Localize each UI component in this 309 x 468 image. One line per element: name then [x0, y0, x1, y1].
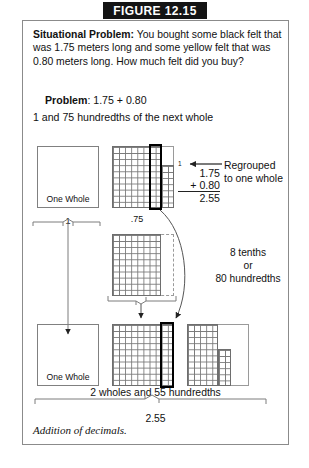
bottom-remainder-grid-lower: [218, 349, 231, 386]
top-grid-partial: [161, 165, 174, 208]
figure-tab-label: FIGURE 12.15: [113, 4, 197, 18]
result-value-label: 2.55: [33, 413, 278, 424]
tick-label-one: 1: [48, 216, 88, 226]
calc-carry: 1: [178, 160, 220, 167]
bottom-one-whole-label: One Whole: [38, 372, 98, 382]
figure-tab: FIGURE 12.15: [103, 2, 207, 19]
figure-caption: Addition of decimals.: [33, 424, 127, 436]
bottom-remainder-grid-upper: [187, 324, 218, 386]
bottom-regrouped-column: [160, 322, 174, 388]
vertical-calculation: 1 1.75 + 0.80 2.55: [178, 160, 220, 205]
regrouped-line-1: Regrouped: [224, 159, 304, 172]
situational-problem-label: Situational Problem:: [33, 29, 134, 40]
top-one-whole-box: One Whole: [37, 146, 99, 208]
eight-tenths-line-3: 80 hundredths: [196, 272, 300, 285]
problem-subline: 1 and 75 hundredths of the next whole: [33, 111, 213, 123]
bottom-one-whole-box: One Whole: [37, 324, 99, 386]
top-one-whole-label: One Whole: [38, 194, 98, 204]
result-text-label: 2 wholes and 55 hundredths: [33, 387, 278, 398]
problem-label: Problem: [45, 94, 87, 106]
calc-addend-1: 1.75: [178, 167, 220, 179]
top-regrouped-column: [149, 144, 162, 210]
calc-addend-2: + 0.80: [178, 179, 220, 191]
situational-problem-text: Situational Problem: You bought some bla…: [33, 28, 283, 68]
tick-label-seventyfive: .75: [122, 214, 152, 224]
regrouped-annotation: Regrouped to one whole: [224, 159, 304, 185]
eight-tenths-line-2: or: [196, 259, 300, 272]
eight-tenths-line-1: 8 tenths: [196, 246, 300, 259]
eight-tenths-note: 8 tenths or 80 hundredths: [196, 246, 300, 285]
calc-sum: 2.55: [178, 191, 220, 204]
middle-grid-cells: [113, 235, 160, 295]
problem-expression: : 1.75 + 0.80: [87, 94, 146, 106]
top-grid-partial-cells: [162, 166, 173, 207]
problem-line: Problem: 1.75 + 0.80: [45, 94, 147, 106]
middle-eight-tenths-grid: [112, 234, 161, 296]
bottom-remainder-cells-upper: [188, 325, 217, 385]
regrouped-line-2: to one whole: [224, 172, 304, 185]
bottom-remainder-cells-lower: [219, 350, 230, 385]
